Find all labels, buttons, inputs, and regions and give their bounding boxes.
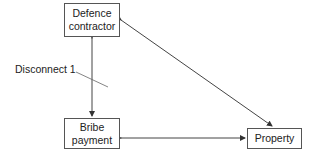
edge-defence-property	[121, 20, 272, 126]
node-defence-line1: Defence	[72, 7, 111, 20]
node-bribe-line2: payment	[72, 134, 112, 147]
node-bribe-payment: Bribe payment	[64, 118, 120, 149]
node-bribe-line1: Bribe	[80, 121, 105, 134]
node-defence-line2: contractor	[69, 20, 116, 33]
node-defence-contractor: Defence contractor	[64, 3, 120, 37]
node-property: Property	[247, 128, 302, 149]
disconnect-label: Disconnect 1	[15, 63, 76, 75]
node-property-label: Property	[255, 132, 295, 145]
